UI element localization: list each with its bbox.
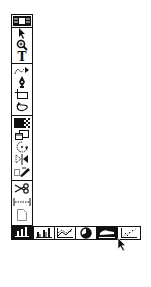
pattern-fill-icon xyxy=(14,118,30,128)
brush-icon xyxy=(14,166,30,177)
area-graph-icon xyxy=(99,228,115,238)
bar-graph-icon xyxy=(15,227,29,237)
freehand-path-icon xyxy=(14,65,30,76)
text-icon: T xyxy=(18,50,27,64)
grouped-column-graph-icon xyxy=(36,228,52,238)
scissors-icon xyxy=(14,183,30,194)
pattern-tool[interactable] xyxy=(12,117,32,129)
pen-tool[interactable] xyxy=(12,76,32,88)
area-graph-option[interactable] xyxy=(97,227,118,239)
line-graph-option[interactable] xyxy=(55,227,76,239)
lasso-icon xyxy=(15,102,29,112)
page-icon xyxy=(17,209,27,221)
line-graph-icon xyxy=(57,228,73,238)
rectangle-icon xyxy=(15,89,29,100)
scatter-graph-icon xyxy=(121,228,137,238)
reflect-tool[interactable] xyxy=(12,153,32,165)
selection-tool[interactable] xyxy=(12,28,32,39)
rotate-tool[interactable] xyxy=(12,141,32,153)
mouse-cursor-icon xyxy=(117,238,127,252)
brush-tool[interactable] xyxy=(12,165,32,178)
palette-header-icon xyxy=(13,16,31,26)
window-icon xyxy=(15,130,29,140)
grouped-column-graph-option[interactable] xyxy=(34,227,55,239)
page-tool[interactable] xyxy=(12,208,32,222)
window-tool[interactable] xyxy=(12,129,32,141)
lasso-tool[interactable] xyxy=(12,101,32,113)
separator xyxy=(12,115,32,116)
measure-tool[interactable] xyxy=(12,195,32,208)
rotate-icon xyxy=(16,141,28,153)
rectangle-tool[interactable] xyxy=(12,88,32,101)
graph-tool[interactable] xyxy=(12,225,32,239)
text-tool[interactable]: T xyxy=(12,51,32,63)
arrow-pointer-icon xyxy=(17,28,27,39)
measure-icon xyxy=(13,197,31,207)
freehand-tool[interactable] xyxy=(12,64,32,76)
reflect-icon xyxy=(15,154,29,165)
palette-header[interactable] xyxy=(12,15,32,28)
pen-nib-icon xyxy=(17,76,27,88)
scissors-tool[interactable] xyxy=(12,182,32,195)
pie-graph-icon xyxy=(80,227,92,239)
toolbox-palette: T xyxy=(11,14,33,240)
separator xyxy=(12,180,32,181)
pie-graph-option[interactable] xyxy=(76,227,97,239)
